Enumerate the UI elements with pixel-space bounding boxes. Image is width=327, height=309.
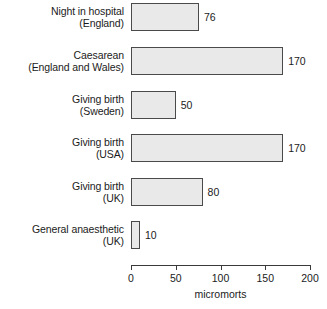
axis-tick <box>131 265 132 270</box>
bar-with-value: 50 <box>131 91 192 119</box>
chart-bar-row: Caesarean (England and Wales) 170 <box>0 44 327 78</box>
bar <box>131 3 199 31</box>
bar-with-value: 76 <box>131 3 216 31</box>
axis-tick-label: 0 <box>128 272 134 284</box>
chart-bar-row: Giving birth (Sweden) 50 <box>0 88 327 122</box>
bar-value-label: 80 <box>208 186 220 198</box>
axis-tick <box>265 265 266 270</box>
bar <box>131 134 283 162</box>
bar-value-label: 10 <box>145 229 157 241</box>
category-label: Giving birth (Sweden) <box>0 93 124 117</box>
category-label: Night in hospital (England) <box>0 5 124 29</box>
x-axis: 050100150200 micromorts <box>131 265 310 309</box>
micromorts-bar-chart: Night in hospital (England) 76 Caesarean… <box>0 0 327 309</box>
category-label-line1: Giving birth <box>0 180 124 192</box>
category-label-line2: (UK) <box>0 235 124 247</box>
category-label-line1: Night in hospital <box>0 5 124 17</box>
category-label-line1: General anaesthetic <box>0 223 124 235</box>
axis-tick <box>176 265 177 270</box>
category-label-line2: (Sweden) <box>0 105 124 117</box>
axis-tick-label: 150 <box>256 272 274 284</box>
bar <box>131 47 283 75</box>
category-label-line2: (USA) <box>0 148 124 160</box>
bar-with-value: 80 <box>131 178 219 206</box>
category-label: General anaesthetic (UK) <box>0 223 124 247</box>
axis-tick-label: 200 <box>301 272 319 284</box>
axis-tick-label: 50 <box>170 272 182 284</box>
category-label-line2: (UK) <box>0 192 124 204</box>
bar-with-value: 10 <box>131 221 157 249</box>
category-label-line1: Giving birth <box>0 93 124 105</box>
bar-value-label: 170 <box>288 55 306 67</box>
category-label: Caesarean (England and Wales) <box>0 49 124 73</box>
bar <box>131 221 140 249</box>
bar-with-value: 170 <box>131 47 306 75</box>
category-label-line2: (England and Wales) <box>0 61 124 73</box>
category-label-line2: (England) <box>0 17 124 29</box>
bar <box>131 91 176 119</box>
bar-value-label: 50 <box>181 99 193 111</box>
bar-value-label: 170 <box>288 142 306 154</box>
chart-bar-row: General anaesthetic (UK) 10 <box>0 218 327 252</box>
axis-tick <box>221 265 222 270</box>
bar <box>131 178 203 206</box>
bar-with-value: 170 <box>131 134 306 162</box>
axis-title: micromorts <box>131 288 310 300</box>
chart-bar-row: Night in hospital (England) 76 <box>0 0 327 34</box>
axis-tick-label: 100 <box>212 272 230 284</box>
category-label-line1: Giving birth <box>0 136 124 148</box>
chart-bar-row: Giving birth (USA) 170 <box>0 131 327 165</box>
axis-tick <box>310 265 311 270</box>
chart-bar-row: Giving birth (UK) 80 <box>0 175 327 209</box>
category-label: Giving birth (UK) <box>0 180 124 204</box>
bar-value-label: 76 <box>204 11 216 23</box>
category-label-line1: Caesarean <box>0 49 124 61</box>
category-label: Giving birth (USA) <box>0 136 124 160</box>
